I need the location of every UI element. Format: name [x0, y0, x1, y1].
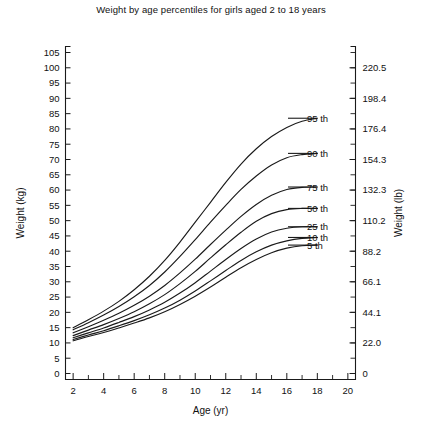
y-tick-label-right: 220.5 — [363, 62, 387, 73]
y-tick-label-left: 100 — [44, 62, 60, 73]
y-tick-label-right: 22.0 — [363, 337, 382, 348]
y-tick-label-left: 45 — [49, 230, 60, 241]
x-axis: 2468101214161820 — [66, 373, 356, 396]
y-tick-label-left: 35 — [49, 261, 60, 272]
y-tick-label-right: 110.2 — [363, 215, 386, 226]
y-axis-left: 0510152025303540455055606570758085909510… — [44, 47, 71, 380]
y-tick-label-left: 105 — [44, 47, 60, 58]
y-tick-label-right: 88.2 — [363, 246, 382, 257]
growth-chart-figure: Weight by age percentiles for girls aged… — [0, 0, 422, 428]
y-tick-label-left: 60 — [49, 184, 60, 195]
y-tick-label-left: 30 — [49, 276, 60, 287]
x-tick-label: 6 — [132, 385, 137, 396]
y-tick-label-left: 75 — [49, 139, 60, 150]
percentile-curve — [73, 227, 317, 338]
y-tick-label-left: 15 — [49, 322, 60, 333]
percentile-labels: 95 th90 th75 th50 th25 th10 th5 th — [288, 113, 328, 251]
x-tick-label: 2 — [70, 385, 75, 396]
y-tick-label-left: 95 — [49, 77, 60, 88]
percentile-curve — [73, 208, 317, 335]
x-axis-title: Age (yr) — [193, 405, 229, 416]
x-tick-label: 12 — [220, 385, 231, 396]
percentile-curve-label: 75 th — [307, 182, 328, 193]
y-tick-label-left: 50 — [49, 215, 60, 226]
y-axis-right-title: Weight (lb) — [393, 189, 404, 237]
x-tick-label: 18 — [312, 385, 323, 396]
y-axis-right: 022.044.166.188.2110.2132.3154.3176.4198… — [350, 47, 387, 380]
percentile-curve-label: 50 th — [307, 203, 328, 214]
percentile-curves — [73, 118, 317, 341]
y-tick-label-left: 65 — [49, 169, 60, 180]
y-tick-label-left: 20 — [49, 307, 60, 318]
y-tick-label-left: 55 — [49, 200, 60, 211]
y-tick-label-left: 80 — [49, 123, 60, 134]
y-tick-label-left: 40 — [49, 246, 60, 257]
y-tick-label-right: 66.1 — [363, 276, 382, 287]
percentile-curve — [73, 153, 317, 329]
x-tick-label: 16 — [282, 385, 293, 396]
y-tick-label-right: 44.1 — [363, 307, 382, 318]
x-tick-label: 4 — [101, 385, 106, 396]
x-tick-label: 10 — [190, 385, 201, 396]
chart-canvas: 0510152025303540455055606570758085909510… — [0, 0, 422, 428]
y-tick-label-left: 5 — [54, 353, 59, 364]
percentile-curve-label: 25 th — [307, 221, 328, 232]
y-tick-label-right: 154.3 — [363, 154, 387, 165]
y-tick-label-left: 25 — [49, 291, 60, 302]
x-tick-label: 8 — [162, 385, 167, 396]
y-tick-label-left: 85 — [49, 108, 60, 119]
y-tick-label-left: 90 — [49, 93, 60, 104]
y-tick-label-left: 70 — [49, 154, 60, 165]
percentile-curve — [73, 187, 317, 333]
y-tick-label-left: 10 — [49, 337, 60, 348]
percentile-curve-label: 5 th — [307, 240, 323, 251]
y-tick-label-right: 0 — [363, 368, 368, 379]
x-tick-label: 20 — [343, 385, 354, 396]
y-axis-left-title: Weight (kg) — [15, 188, 26, 239]
x-tick-label: 14 — [251, 385, 262, 396]
y-tick-label-right: 176.4 — [363, 123, 387, 134]
percentile-curve-label: 90 th — [307, 148, 328, 159]
percentile-curve — [73, 237, 317, 339]
y-tick-label-left: 0 — [54, 368, 59, 379]
y-tick-label-right: 132.3 — [363, 184, 387, 195]
y-tick-label-right: 198.4 — [363, 93, 387, 104]
percentile-curve-label: 95 th — [307, 113, 328, 124]
